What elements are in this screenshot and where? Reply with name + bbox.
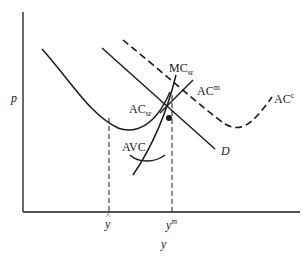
x-tick-y-hat: ^ y bbox=[105, 218, 110, 230]
x-tick-y-m: ym bbox=[166, 218, 177, 231]
avc-label: AVC bbox=[122, 141, 146, 153]
intersection-point bbox=[166, 115, 172, 121]
mc-sr-label: MCsr bbox=[169, 62, 193, 77]
ac-sr-label: ACsr bbox=[129, 103, 151, 118]
x-axis-label: y bbox=[161, 238, 166, 250]
demand-curve bbox=[102, 48, 215, 149]
hat-accent: ^ bbox=[106, 212, 110, 221]
d-label: D bbox=[221, 145, 230, 157]
ac-m-label: ACm bbox=[197, 84, 220, 97]
ac-c-label: ACc bbox=[274, 92, 294, 105]
diagram-canvas bbox=[0, 0, 304, 259]
y-axis-label: p bbox=[11, 92, 17, 104]
avc-curve bbox=[130, 155, 165, 161]
